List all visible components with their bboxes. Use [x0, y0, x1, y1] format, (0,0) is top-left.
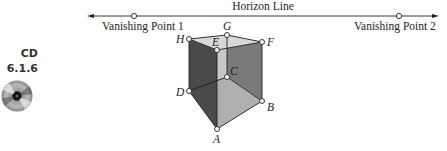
vanishing-point-1-marker[interactable]: [131, 13, 136, 18]
vanishing-point-2-label: Vanishing Point 2: [354, 20, 436, 33]
point-h-label: H: [175, 33, 185, 45]
point-b-marker[interactable]: [260, 99, 265, 104]
point-c-marker[interactable]: [225, 75, 230, 80]
arrow-right-icon: [432, 14, 439, 18]
point-g-marker[interactable]: [225, 33, 230, 38]
point-f-label: F: [266, 36, 275, 48]
point-a-marker[interactable]: [215, 127, 220, 132]
point-c-label: C: [230, 65, 238, 77]
vanishing-point-1-label: Vanishing Point 1: [102, 20, 184, 33]
vanishing-point-2-marker[interactable]: [396, 13, 401, 18]
left-front-face: [189, 39, 217, 129]
point-g-label: G: [223, 20, 232, 32]
horizon-line-label: Horizon Line: [232, 0, 294, 12]
point-e-label: E: [211, 36, 219, 48]
point-e-marker[interactable]: [215, 48, 220, 53]
point-a-label: A: [212, 133, 221, 145]
point-b-label: B: [267, 101, 274, 113]
point-d-label: D: [175, 86, 185, 98]
box: [189, 35, 262, 129]
arrow-left-icon: [87, 14, 94, 18]
point-d-marker[interactable]: [187, 89, 192, 94]
horizon-line: [87, 14, 439, 18]
point-h-marker[interactable]: [187, 37, 192, 42]
perspective-diagram: Horizon Line Vanishing Point 1 Vanishing…: [0, 0, 447, 151]
point-f-marker[interactable]: [260, 40, 265, 45]
